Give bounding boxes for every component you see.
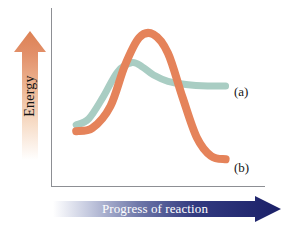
series-a-curve <box>76 62 225 125</box>
curves-layer <box>0 0 285 226</box>
series-b-label: (b) <box>234 160 249 176</box>
series-b-curve <box>76 33 225 159</box>
series-a-label: (a) <box>234 84 248 100</box>
reaction-energy-diagram: Energy Progress of reaction (a) (b) <box>0 0 285 226</box>
